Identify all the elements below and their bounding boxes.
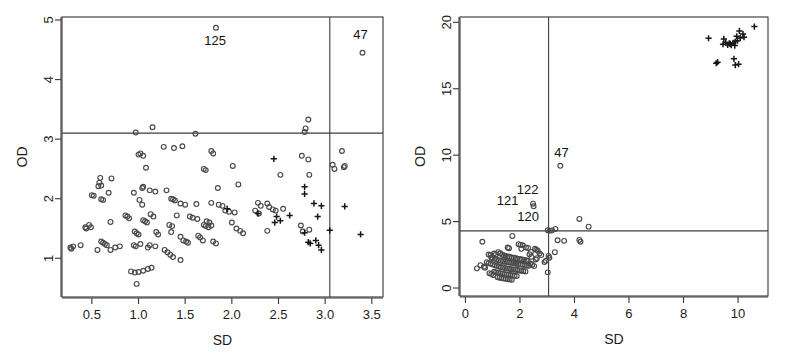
data-point-circle	[558, 163, 563, 168]
y-tick-label: 3	[42, 136, 57, 143]
data-point-circle	[144, 165, 149, 170]
right-plot-svg: 02468100510152047122121120SDOD	[400, 0, 799, 358]
data-point-plus	[302, 184, 308, 190]
data-point-circle	[215, 186, 220, 191]
data-point-circle	[534, 256, 539, 261]
x-tick-label: 0.5	[83, 307, 101, 322]
data-point-plus	[736, 28, 742, 34]
data-point-circle	[178, 201, 183, 206]
data-point-plus	[315, 213, 321, 219]
data-point-circle	[108, 220, 113, 225]
point-label: 121	[497, 193, 519, 208]
x-axis-title: SD	[213, 332, 232, 348]
y-tick-label: 5	[440, 218, 455, 225]
data-point-plus	[735, 61, 741, 67]
data-point-circle	[172, 146, 177, 151]
data-point-circle	[194, 202, 199, 207]
left-plot-svg: 0.51.01.52.02.53.03.51234512547SDOD	[0, 0, 400, 358]
data-point-circle	[201, 238, 206, 243]
data-point-circle	[307, 172, 312, 177]
data-point-circle	[133, 130, 138, 135]
data-point-circle	[214, 25, 219, 30]
data-point-circle	[232, 210, 237, 215]
data-point-plus	[358, 231, 364, 237]
y-tick-label: 0	[440, 284, 455, 291]
point-label: 125	[204, 33, 226, 48]
y-tick-label: 15	[440, 82, 455, 96]
data-point-circle	[229, 220, 234, 225]
data-point-circle	[258, 203, 263, 208]
data-point-circle	[307, 227, 312, 232]
data-point-circle	[306, 157, 311, 162]
x-tick-label: 1.5	[176, 307, 194, 322]
data-point-circle	[108, 248, 113, 253]
data-point-plus	[287, 212, 293, 218]
point-label: 47	[554, 145, 568, 160]
data-point-plus	[277, 218, 283, 224]
data-point-circle	[164, 188, 169, 193]
data-point-circle	[78, 243, 83, 248]
panel-left: 0.51.01.52.02.53.03.51234512547SDOD	[0, 0, 400, 358]
x-tick-label: 1.0	[129, 307, 147, 322]
data-point-circle	[174, 213, 179, 218]
data-point-circle	[545, 270, 550, 275]
scatter-plot-figure: 0.51.01.52.02.53.03.51234512547SDOD 0246…	[0, 0, 799, 358]
point-label: 47	[353, 27, 367, 42]
data-point-circle	[109, 176, 114, 181]
data-point-plus	[705, 35, 711, 41]
data-point-plus	[741, 34, 747, 40]
data-point-circle	[480, 239, 485, 244]
data-point-circle	[340, 149, 345, 154]
data-point-circle	[98, 175, 103, 180]
data-point-plus	[751, 23, 757, 29]
data-point-circle	[106, 190, 111, 195]
x-tick-label: 2.0	[223, 307, 241, 322]
x-tick-label: 0	[462, 306, 469, 321]
point-label: 120	[517, 209, 539, 224]
data-point-plus	[714, 59, 720, 65]
data-point-circle	[256, 200, 261, 205]
y-tick-label: 4	[42, 76, 57, 83]
data-point-plus	[732, 62, 738, 68]
data-point-circle	[137, 197, 142, 202]
data-point-circle	[230, 164, 235, 169]
data-point-circle	[134, 281, 139, 286]
data-point-circle	[141, 268, 146, 273]
data-point-circle	[299, 153, 304, 158]
data-point-plus	[327, 227, 333, 233]
data-point-circle	[195, 217, 200, 222]
data-point-circle	[180, 144, 185, 149]
data-point-circle	[95, 248, 100, 253]
y-tick-label: 1	[42, 255, 57, 262]
data-point-circle	[153, 189, 158, 194]
y-axis-title: OD	[14, 147, 30, 168]
panel-right: 02468100510152047122121120SDOD	[400, 0, 799, 358]
x-tick-label: 10	[731, 306, 745, 321]
data-point-plus	[713, 60, 719, 66]
data-point-circle	[153, 244, 158, 249]
x-tick-label: 6	[625, 306, 632, 321]
data-point-circle	[577, 217, 582, 222]
data-point-plus	[271, 156, 277, 162]
data-point-circle	[138, 242, 143, 247]
data-point-circle	[265, 228, 270, 233]
x-tick-label: 3.5	[363, 307, 381, 322]
data-point-circle	[586, 224, 591, 229]
data-point-circle	[360, 50, 365, 55]
data-point-circle	[161, 144, 166, 149]
data-point-circle	[131, 190, 136, 195]
data-point-circle	[140, 202, 145, 207]
y-tick-label: 5	[42, 16, 57, 23]
data-point-circle	[332, 167, 337, 172]
data-point-circle	[281, 206, 286, 211]
data-point-circle	[236, 182, 241, 187]
y-axis-title: OD	[412, 146, 428, 167]
x-tick-label: 2.5	[269, 307, 287, 322]
data-point-circle	[510, 234, 515, 239]
data-point-circle	[150, 125, 155, 130]
data-point-circle	[562, 238, 567, 243]
data-point-plus	[731, 56, 737, 62]
y-tick-label: 10	[440, 148, 455, 162]
data-point-circle	[117, 244, 122, 249]
data-point-circle	[193, 131, 198, 136]
